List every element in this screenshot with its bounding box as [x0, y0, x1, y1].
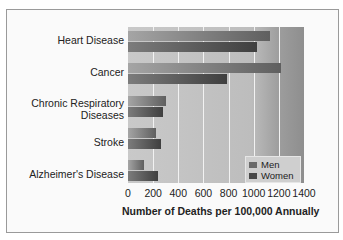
bar-women — [128, 171, 158, 181]
legend-label-women: Women — [261, 170, 294, 181]
bar-women — [128, 74, 227, 84]
x-tick-label: 1200 — [267, 187, 290, 199]
category-label-line1: Chronic Respiratory — [31, 97, 124, 109]
x-tick-label: 1000 — [242, 187, 265, 199]
legend-item-women: Women — [249, 170, 294, 181]
x-tick-label: 200 — [144, 187, 162, 199]
bar-women — [128, 139, 161, 149]
category-label-alzheimers: Alzheimer's Disease — [29, 168, 124, 180]
category-label-chronic-respiratory: Chronic Respiratory Diseases — [31, 97, 124, 121]
category-label-stroke: Stroke — [94, 136, 124, 148]
x-axis-label: Number of Deaths per 100,000 Annually — [122, 205, 319, 217]
legend-label-men: Men — [261, 159, 279, 170]
bar-men — [128, 96, 166, 106]
category-label-cancer: Cancer — [90, 66, 124, 78]
x-tick-label: 1400 — [292, 187, 315, 199]
bar-women — [128, 42, 257, 52]
x-tick-label: 600 — [195, 187, 213, 199]
x-tick-label: 800 — [220, 187, 238, 199]
bar-men — [128, 31, 270, 41]
category-label-heart-disease: Heart Disease — [57, 34, 124, 46]
category-label-line2: Diseases — [31, 109, 124, 121]
bar-men — [128, 128, 156, 138]
x-tick-label: 400 — [170, 187, 188, 199]
bar-women — [128, 107, 163, 117]
legend-swatch-men — [249, 162, 257, 168]
x-tick-label: 0 — [125, 187, 131, 199]
legend: Men Women — [245, 156, 301, 183]
bar-men — [128, 160, 144, 170]
legend-item-men: Men — [249, 159, 279, 170]
bar-men — [128, 63, 281, 73]
legend-swatch-women — [249, 173, 257, 179]
